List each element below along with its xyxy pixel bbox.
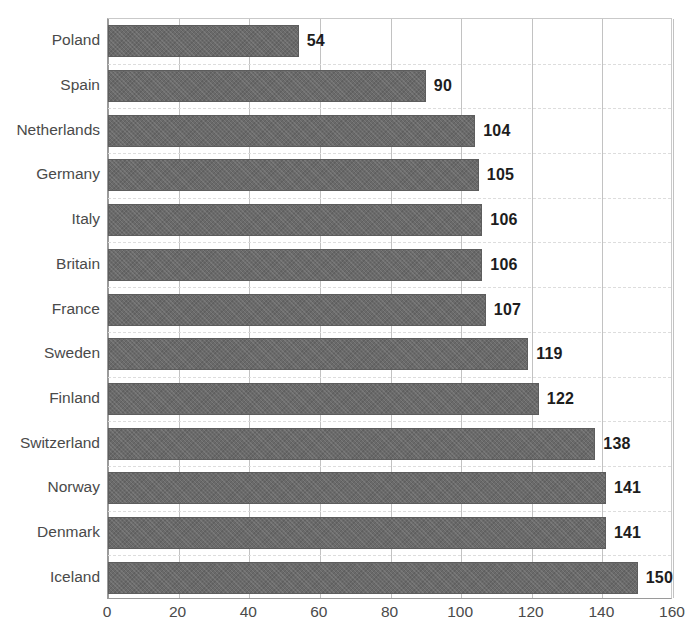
gridline-horizontal: [108, 287, 671, 288]
category-label-switzerland: Switzerland: [0, 434, 100, 452]
category-label-poland: Poland: [0, 31, 100, 49]
bar-switzerland[interactable]: [108, 428, 595, 460]
bar-italy[interactable]: [108, 204, 482, 236]
bar-value-label-denmark: 141: [614, 524, 641, 542]
bar-germany[interactable]: [108, 159, 479, 191]
plot-area: 5490104105106106107119122138141141150: [107, 18, 672, 599]
bar-iceland[interactable]: [108, 562, 638, 594]
bar-row: 141: [108, 517, 671, 549]
category-label-spain: Spain: [0, 76, 100, 94]
bar-row: 90: [108, 70, 671, 102]
bar-row: 119: [108, 338, 671, 370]
bar-sweden[interactable]: [108, 338, 528, 370]
bar-value-label-switzerland: 138: [603, 435, 630, 453]
bar-row: 141: [108, 472, 671, 504]
bar-value-label-sweden: 119: [536, 345, 562, 363]
category-label-britain: Britain: [0, 255, 100, 273]
x-tick-label-160: 160: [659, 603, 685, 621]
category-label-germany: Germany: [0, 165, 100, 183]
gridline-vertical-160: [673, 19, 674, 598]
x-tick-label-140: 140: [588, 603, 614, 621]
gridline-horizontal: [108, 466, 671, 467]
y-axis-category-labels: PolandSpainNetherlandsGermanyItalyBritai…: [0, 18, 100, 599]
category-label-sweden: Sweden: [0, 344, 100, 362]
bar-finland[interactable]: [108, 383, 539, 415]
x-tick-label-80: 80: [381, 603, 398, 621]
bar-netherlands[interactable]: [108, 115, 475, 147]
category-label-italy: Italy: [0, 210, 100, 228]
bar-spain[interactable]: [108, 70, 426, 102]
bar-chart: PolandSpainNetherlandsGermanyItalyBritai…: [0, 0, 695, 635]
x-tick-label-20: 20: [169, 603, 186, 621]
bar-value-label-spain: 90: [434, 77, 452, 95]
bar-row: 105: [108, 159, 671, 191]
bar-value-label-norway: 141: [614, 479, 641, 497]
x-tick-label-40: 40: [240, 603, 257, 621]
bar-row: 106: [108, 204, 671, 236]
category-label-finland: Finland: [0, 389, 100, 407]
gridline-horizontal: [108, 153, 671, 154]
category-label-netherlands: Netherlands: [0, 121, 100, 139]
gridline-horizontal: [108, 242, 671, 243]
gridline-horizontal: [108, 64, 671, 65]
gridline-horizontal: [108, 511, 671, 512]
gridline-horizontal: [108, 332, 671, 333]
bar-row: 104: [108, 115, 671, 147]
gridline-horizontal: [108, 377, 671, 378]
bar-value-label-netherlands: 104: [483, 122, 510, 140]
bar-france[interactable]: [108, 294, 486, 326]
bar-norway[interactable]: [108, 472, 606, 504]
x-tick-label-0: 0: [103, 603, 112, 621]
category-label-denmark: Denmark: [0, 523, 100, 541]
x-tick-label-60: 60: [310, 603, 327, 621]
bar-row: 106: [108, 249, 671, 281]
gridline-horizontal: [108, 421, 671, 422]
bar-row: 107: [108, 294, 671, 326]
bar-value-label-italy: 106: [490, 211, 517, 229]
x-tick-label-100: 100: [447, 603, 473, 621]
category-label-france: France: [0, 300, 100, 318]
bar-value-label-finland: 122: [547, 390, 574, 408]
bar-value-label-germany: 105: [487, 166, 514, 184]
x-axis-tick-labels: 020406080100120140160: [107, 603, 672, 633]
bar-row: 138: [108, 428, 671, 460]
bar-row: 54: [108, 25, 671, 57]
gridline-horizontal: [108, 198, 671, 199]
gridline-horizontal: [108, 555, 671, 556]
bar-value-label-iceland: 150: [646, 569, 673, 587]
category-label-norway: Norway: [0, 478, 100, 496]
bar-poland[interactable]: [108, 25, 299, 57]
bar-value-label-france: 107: [494, 301, 521, 319]
bar-value-label-britain: 106: [490, 256, 517, 274]
x-tick-label-120: 120: [518, 603, 544, 621]
bar-row: 150: [108, 562, 671, 594]
bar-denmark[interactable]: [108, 517, 606, 549]
bar-britain[interactable]: [108, 249, 482, 281]
category-label-iceland: Iceland: [0, 568, 100, 586]
gridline-horizontal: [108, 108, 671, 109]
bar-value-label-poland: 54: [307, 32, 325, 50]
bar-row: 122: [108, 383, 671, 415]
